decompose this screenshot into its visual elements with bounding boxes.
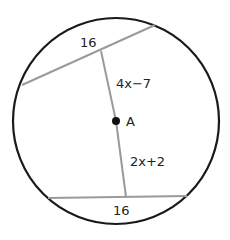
top-distance-label: 4x−7 xyxy=(116,76,151,91)
bottom-distance-segment xyxy=(116,121,126,197)
bottom-distance-label: 2x+2 xyxy=(130,154,165,169)
circle-diagram: 16 4x−7 A 2x+2 16 xyxy=(0,0,230,240)
bottom-chord xyxy=(48,196,187,198)
center-point-A xyxy=(112,117,120,125)
bottom-chord-length-label: 16 xyxy=(113,203,130,218)
top-chord-length-label: 16 xyxy=(80,35,97,50)
center-label: A xyxy=(126,114,135,129)
top-distance-segment xyxy=(101,51,116,121)
